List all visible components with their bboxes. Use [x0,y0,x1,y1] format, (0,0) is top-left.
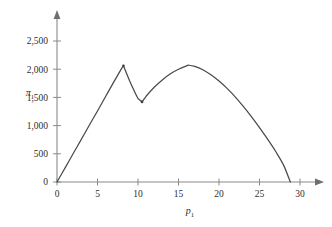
y-tick-label: 1,000 [27,121,49,131]
x-tick-label: 10 [133,189,143,199]
x-tick-label: 5 [95,189,100,199]
x-axis-arrow-icon [315,179,324,186]
x-tick-label: 30 [295,189,305,199]
profit-curve-chart: 05001,0001,5002,0002,500 051015202530 π1… [0,0,332,227]
x-tick-label: 25 [255,189,265,199]
y-tick-label: 2,500 [27,36,49,46]
y-axis-title: π1 [26,87,34,100]
x-tick-label: 15 [174,189,184,199]
x-axis-title: p1 [185,205,194,218]
y-axis-tick-labels: 05001,0001,5002,0002,500 [27,36,49,187]
curve-point-marker [141,101,144,104]
y-tick-label: 500 [34,149,49,159]
y-tick-label: 0 [43,177,48,187]
y-tick-label: 2,000 [27,65,49,75]
curve-point-marker [122,65,125,68]
x-tick-label: 0 [55,189,60,199]
x-tick-label: 20 [214,189,224,199]
y-axis-arrow-icon [54,10,61,19]
profit-curve-line [57,65,290,182]
x-axis-tick-labels: 051015202530 [55,189,305,199]
chart-container: 05001,0001,5002,0002,500 051015202530 π1… [0,0,332,227]
